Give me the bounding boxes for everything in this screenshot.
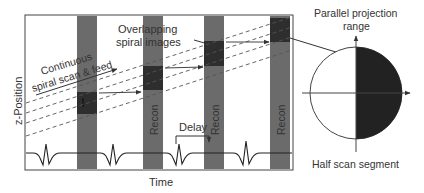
bar-3 (204, 16, 224, 169)
half-scan-circle (302, 36, 410, 152)
image-arrow-1 (99, 92, 141, 93)
projection-label-line2: range (343, 20, 370, 32)
overlap-label-line2: spiral images (116, 36, 181, 48)
recon-label-2: Recon (209, 104, 221, 135)
recon-label-1: Recon (148, 104, 160, 135)
y-axis-label: z-Position (12, 77, 24, 125)
cardiac-spiral-ct-diagram: z-Position Time Continuous spiral scan &… (0, 0, 424, 193)
projection-label-line1: Parallel projection (314, 7, 398, 19)
recon-label-3: Recon (275, 104, 287, 135)
image-arrow-2 (165, 67, 203, 68)
half-scan-label: Half scan segment (312, 158, 399, 170)
overlap-label-line1: Overlapping (118, 23, 177, 35)
x-axis-label: Time (149, 176, 173, 188)
delay-label: Delay (179, 121, 208, 133)
